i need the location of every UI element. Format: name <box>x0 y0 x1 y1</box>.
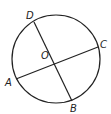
label-o: O <box>41 50 49 61</box>
segment-ac <box>16 47 98 79</box>
circle-diagram: D C O A B <box>0 0 111 114</box>
label-a: A <box>4 77 12 88</box>
diagram-canvas: D C O A B <box>0 0 111 114</box>
label-c: C <box>100 39 107 50</box>
segment-db <box>34 22 72 101</box>
circle <box>12 15 100 103</box>
label-d: D <box>26 10 34 21</box>
label-b: B <box>70 103 77 114</box>
